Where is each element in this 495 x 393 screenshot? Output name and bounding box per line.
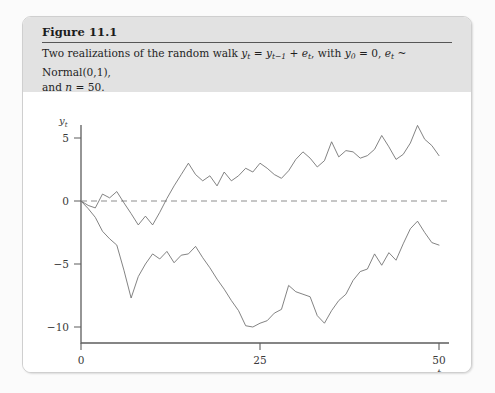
random-walk-chart: 50−5−1002550ytt <box>23 92 471 372</box>
plot-area: 50−5−1002550ytt <box>23 92 471 372</box>
page-background: Figure 11.1 Two realizations of the rand… <box>0 0 495 393</box>
title-divider <box>42 42 452 43</box>
x-tick-label: 25 <box>253 354 266 366</box>
y-tick-label: 0 <box>62 195 69 207</box>
caption-band: Figure 11.1 Two realizations of the rand… <box>23 17 471 92</box>
caption-plus: + <box>286 47 302 59</box>
x-tick-label: 0 <box>78 354 85 366</box>
x-axis-label: t <box>437 367 442 372</box>
y-tick-label: −10 <box>47 321 69 333</box>
series-line-1 <box>81 125 439 225</box>
y-tick-label: −5 <box>54 258 69 270</box>
figure-caption: Two realizations of the random walk yt =… <box>42 46 456 96</box>
figure-card: Figure 11.1 Two realizations of the rand… <box>22 16 472 373</box>
figure-title: Figure 11.1 <box>42 25 117 39</box>
caption-part-1: Two realizations of the random walk <box>42 47 241 59</box>
caption-with: , with <box>311 47 345 59</box>
y-axis-label: yt <box>58 115 68 129</box>
caption-var-ylag-sub: t−1 <box>272 52 286 61</box>
y-tick-label: 5 <box>62 132 69 144</box>
x-tick-label: 50 <box>432 354 445 366</box>
caption-eq: = <box>250 47 266 59</box>
chart-axes <box>81 125 449 343</box>
caption-y0-eq: = 0, <box>356 47 385 59</box>
